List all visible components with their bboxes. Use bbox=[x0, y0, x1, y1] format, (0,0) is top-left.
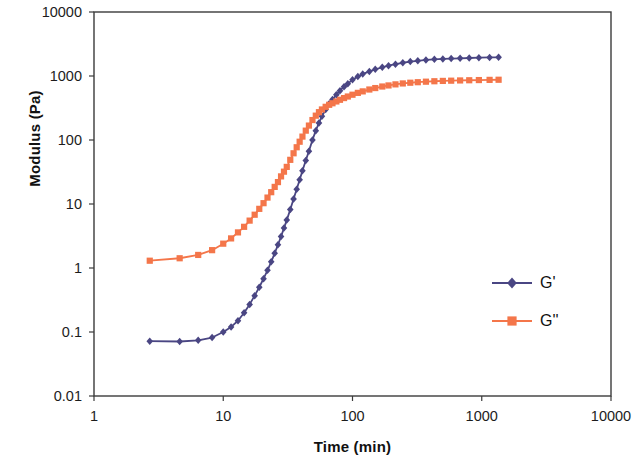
data-marker bbox=[252, 212, 258, 218]
data-marker bbox=[235, 229, 241, 235]
data-marker bbox=[407, 80, 413, 86]
data-marker bbox=[440, 78, 446, 84]
data-marker bbox=[431, 78, 437, 84]
data-marker bbox=[379, 83, 385, 89]
data-marker bbox=[415, 79, 421, 85]
x-axis-title: Time (min) bbox=[94, 438, 611, 455]
data-marker bbox=[392, 81, 398, 87]
data-marker bbox=[385, 82, 391, 88]
data-marker bbox=[247, 218, 253, 224]
data-marker bbox=[220, 241, 226, 247]
y-tick-label: 0.1 bbox=[0, 324, 82, 340]
x-tick-label: 1000 bbox=[466, 408, 498, 424]
x-tick-label: 10000 bbox=[591, 408, 631, 424]
data-marker bbox=[366, 86, 372, 92]
data-marker bbox=[209, 247, 215, 253]
data-marker bbox=[507, 316, 516, 325]
x-tick-label: 100 bbox=[340, 408, 364, 424]
data-marker bbox=[228, 235, 234, 241]
data-marker bbox=[290, 150, 296, 156]
data-marker bbox=[400, 80, 406, 86]
data-marker bbox=[486, 77, 492, 83]
data-marker bbox=[195, 252, 201, 258]
data-marker bbox=[275, 179, 281, 185]
x-tick-label: 1 bbox=[90, 408, 98, 424]
data-marker bbox=[241, 224, 247, 230]
data-marker bbox=[260, 200, 266, 206]
rheology-modulus-chart: Modulus (Pa) Time (min) 0.010.1110100100… bbox=[0, 0, 640, 468]
data-marker bbox=[448, 78, 454, 84]
data-marker bbox=[299, 134, 305, 140]
legend-label: G'' bbox=[540, 312, 559, 330]
plot-frame bbox=[94, 12, 611, 396]
data-marker bbox=[264, 194, 270, 200]
x-tick-label: 10 bbox=[215, 408, 231, 424]
data-marker bbox=[294, 144, 300, 150]
data-marker bbox=[268, 189, 274, 195]
data-marker bbox=[495, 77, 501, 83]
data-marker bbox=[476, 77, 482, 83]
data-marker bbox=[423, 79, 429, 85]
data-marker bbox=[287, 157, 293, 163]
y-tick-label: 10 bbox=[0, 196, 82, 212]
data-marker bbox=[177, 255, 183, 261]
data-marker bbox=[360, 88, 366, 94]
data-marker bbox=[306, 122, 312, 128]
plot-area bbox=[0, 0, 640, 468]
data-marker bbox=[284, 164, 290, 170]
legend-label: G' bbox=[540, 274, 556, 292]
y-tick-label: 0.01 bbox=[0, 388, 82, 404]
data-marker bbox=[349, 92, 355, 98]
y-tick-label: 10000 bbox=[0, 4, 82, 20]
y-tick-label: 1000 bbox=[0, 68, 82, 84]
data-marker bbox=[256, 206, 262, 212]
data-marker bbox=[466, 77, 472, 83]
y-tick-label: 1 bbox=[0, 260, 82, 276]
data-marker bbox=[147, 258, 153, 264]
y-tick-label: 100 bbox=[0, 132, 82, 148]
data-marker bbox=[457, 77, 463, 83]
data-marker bbox=[372, 85, 378, 91]
